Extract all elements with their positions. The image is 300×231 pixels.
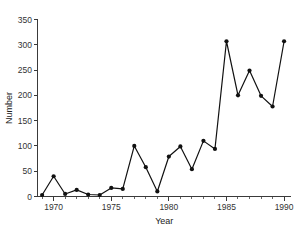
series-line-number xyxy=(42,41,284,195)
y-tick-label: 200 xyxy=(18,90,32,100)
data-point-marker xyxy=(201,139,205,143)
data-point-marker xyxy=(259,94,263,98)
data-point-marker xyxy=(121,187,125,191)
data-point-marker xyxy=(247,68,251,72)
y-tick-label: 150 xyxy=(18,116,32,126)
data-point-marker xyxy=(86,192,90,196)
data-point-marker xyxy=(40,193,44,197)
data-point-marker xyxy=(167,154,171,158)
data-point-marker xyxy=(75,188,79,192)
y-axis-title: Number xyxy=(4,92,14,124)
data-point-marker xyxy=(132,144,136,148)
y-tick-label: 300 xyxy=(18,40,32,50)
x-tick-label: 1970 xyxy=(44,202,63,212)
data-point-marker xyxy=(109,186,113,190)
x-tick-label: 1975 xyxy=(102,202,121,212)
chart-figure: 0501001502002503003501970197519801985199… xyxy=(0,0,300,231)
data-point-marker xyxy=(98,193,102,197)
data-point-marker xyxy=(224,39,228,43)
data-point-marker xyxy=(52,174,56,178)
y-tick-label: 0 xyxy=(27,192,32,202)
line-chart: 0501001502002503003501970197519801985199… xyxy=(0,0,300,231)
data-point-marker xyxy=(63,192,67,196)
data-point-marker xyxy=(178,144,182,148)
x-tick-label: 1985 xyxy=(217,202,236,212)
y-tick-label: 250 xyxy=(18,65,32,75)
y-tick-label: 350 xyxy=(18,15,32,25)
data-point-marker xyxy=(190,167,194,171)
x-tick-label: 1990 xyxy=(275,202,294,212)
y-tick-label: 100 xyxy=(18,141,32,151)
x-tick-label: 1980 xyxy=(159,202,178,212)
data-point-marker xyxy=(236,93,240,97)
data-point-marker xyxy=(282,39,286,43)
x-axis-title: Year xyxy=(155,216,173,226)
data-point-marker xyxy=(213,147,217,151)
data-point-marker xyxy=(155,189,159,193)
y-tick-label: 50 xyxy=(23,166,33,176)
data-point-marker xyxy=(144,165,148,169)
data-point-marker xyxy=(270,104,274,108)
